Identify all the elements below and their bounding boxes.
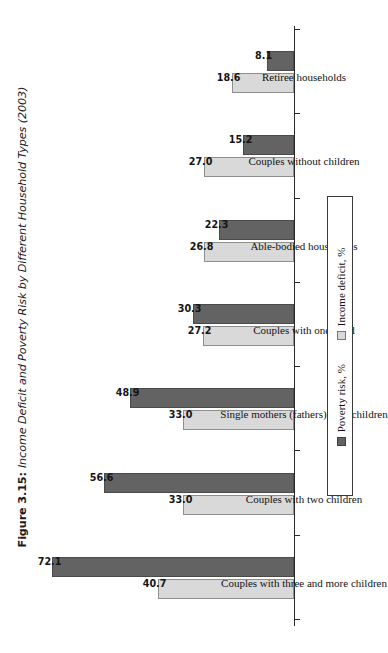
bar-wrapper: 15.2 xyxy=(243,135,294,155)
bar-value-label: 26.8 xyxy=(189,242,213,252)
bar-value-label: 27.0 xyxy=(189,158,213,168)
bar-wrapper: 48.9 xyxy=(130,388,294,408)
bar-poverty-risk[interactable] xyxy=(104,473,294,493)
chart-legend: Income deficit, %Poverty risk, % xyxy=(327,196,353,496)
legend-item-poverty-risk[interactable]: Poverty risk, % xyxy=(336,364,347,446)
axis-tick xyxy=(294,29,300,30)
legend-item-income-deficit[interactable]: Income deficit, % xyxy=(336,248,347,341)
bar-poverty-risk[interactable] xyxy=(130,388,294,408)
bar-poverty-risk[interactable] xyxy=(219,220,294,240)
category-label: Single mothers (fathers) with children xyxy=(220,409,387,420)
bar-group: 18.68.1 xyxy=(26,30,294,114)
bar-value-label: 40.7 xyxy=(143,579,167,589)
bar-poverty-risk[interactable] xyxy=(193,304,295,324)
bar-wrapper: 30.3 xyxy=(193,304,295,324)
bar-wrapper: 22.3 xyxy=(219,220,294,240)
category-label: Couples without children xyxy=(248,156,359,167)
bar-value-label: 30.3 xyxy=(178,304,202,314)
axis-tick xyxy=(294,113,300,114)
bar-value-label: 48.9 xyxy=(115,389,139,399)
bar-value-label: 72.1 xyxy=(38,557,62,567)
bar-value-label: 56.6 xyxy=(90,473,114,483)
legend-item-label: Poverty risk, % xyxy=(336,364,347,432)
category-label-cell: Couples with two children xyxy=(302,451,326,535)
category-label: Retiree households xyxy=(262,72,346,83)
grouped-bar-chart: 40.772.133.056.633.048.927.230.326.822.3… xyxy=(26,26,326,626)
category-label-cell: Couples with one child xyxy=(302,283,326,367)
axis-tick xyxy=(294,450,300,451)
bar-wrapper: 72.1 xyxy=(52,557,294,577)
bar-wrapper: 56.6 xyxy=(104,473,294,493)
category-label-cell: Couples with three and more children xyxy=(302,536,326,620)
axis-tick xyxy=(294,282,300,283)
bar-value-label: 15.2 xyxy=(228,136,252,146)
chart-rotation-wrapper: 40.772.133.056.633.048.927.230.326.822.3… xyxy=(26,26,326,626)
bar-value-label: 33.0 xyxy=(169,495,193,505)
bar-wrapper: 8.1 xyxy=(267,51,294,71)
category-axis-labels: Couples with three and more childrenCoup… xyxy=(302,26,326,626)
bar-value-label: 27.2 xyxy=(188,326,212,336)
light-gray-swatch xyxy=(337,331,346,340)
category-label-cell: Retiree households xyxy=(302,30,326,114)
axis-tick xyxy=(294,198,300,199)
bar-value-label: 33.0 xyxy=(169,411,193,421)
category-label: Couples with three and more children xyxy=(221,578,387,589)
legend-entries: Income deficit, %Poverty risk, % xyxy=(328,197,354,497)
dark-gray-swatch xyxy=(337,437,346,446)
axis-tick xyxy=(294,535,300,536)
category-label-cell: Single mothers (fathers) with children xyxy=(302,367,326,451)
bar-value-label: 22.3 xyxy=(204,220,228,230)
bar-poverty-risk[interactable] xyxy=(52,557,294,577)
bar-value-label: 18.6 xyxy=(217,74,241,84)
category-label-cell: Couples without children xyxy=(302,114,326,198)
legend-item-label: Income deficit, % xyxy=(336,248,347,327)
axis-tick xyxy=(294,619,300,620)
category-label-cell: Able-bodied households xyxy=(302,199,326,283)
bar-value-label: 8.1 xyxy=(255,52,272,62)
axis-tick xyxy=(294,366,300,367)
